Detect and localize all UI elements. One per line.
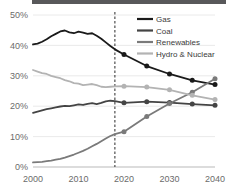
series-marker-renewables: [144, 114, 149, 119]
series-marker-coal: [190, 102, 195, 107]
series-marker-renewables: [122, 129, 127, 134]
legend-label-renewables: Renewables: [156, 38, 200, 47]
chart-plot-svg: 0%10%20%30%40%50%20002010202020302040Gas…: [0, 0, 226, 193]
y-axis-tick-label: 20%: [10, 101, 28, 111]
y-axis-tick-label: 50%: [10, 10, 28, 20]
series-marker-hydro-nuclear: [213, 97, 218, 102]
series-marker-hydro-nuclear: [167, 87, 172, 92]
series-marker-gas: [190, 78, 195, 83]
y-axis-tick-label: 30%: [10, 71, 28, 81]
line-chart: 0%10%20%30%40%50%20002010202020302040Gas…: [0, 0, 226, 193]
series-marker-coal: [213, 103, 218, 108]
series-marker-hydro-nuclear: [122, 84, 127, 89]
series-marker-renewables: [167, 101, 172, 106]
y-axis-tick-label: 10%: [10, 132, 28, 142]
series-marker-hydro-nuclear: [190, 93, 195, 98]
x-axis-tick-label: 2010: [68, 174, 88, 184]
legend-label-gas: Gas: [156, 15, 171, 24]
series-marker-gas: [167, 71, 172, 76]
series-marker-hydro-nuclear: [144, 85, 149, 90]
series-marker-gas: [144, 64, 149, 69]
y-axis-tick-label: 40%: [10, 41, 28, 51]
series-line-renewables: [33, 79, 215, 163]
series-marker-coal: [144, 99, 149, 104]
x-axis-tick-label: 2040: [205, 174, 225, 184]
x-axis-tick-label: 2030: [159, 174, 179, 184]
legend-label-coal: Coal: [156, 27, 173, 36]
series-marker-renewables: [213, 76, 218, 81]
y-axis-tick-label: 0%: [15, 162, 28, 172]
legend-label-hydro-nuclear: Hydro & Nuclear: [156, 50, 215, 59]
series-marker-coal: [122, 100, 127, 105]
x-axis-tick-label: 2020: [114, 174, 134, 184]
series-marker-gas: [213, 82, 218, 87]
x-axis-tick-label: 2000: [23, 174, 43, 184]
series-marker-gas: [122, 52, 127, 57]
chart-screenshot: 0%10%20%30%40%50%20002010202020302040Gas…: [0, 0, 226, 193]
